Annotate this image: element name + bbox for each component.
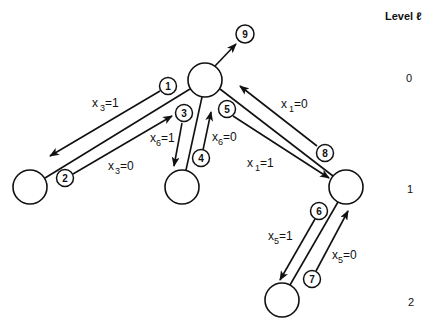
tree-node-right (329, 170, 363, 204)
svg-text:8: 8 (322, 148, 328, 159)
svg-text:5: 5 (224, 104, 230, 115)
label-step-5: x1=1 (247, 156, 274, 173)
tree-edge-root-exit (215, 44, 236, 66)
level-label-1: 1 (407, 183, 413, 195)
step-badge-3: 3 (176, 105, 193, 122)
tree-edge-root-right (220, 89, 333, 176)
search-tree-diagram: 1 2 3 4 5 6 7 8 (0, 0, 434, 327)
step-8-arrow (240, 86, 317, 146)
level-label-0: 0 (406, 72, 412, 84)
tree-node-root (188, 63, 222, 97)
level-header: Level ℓ (385, 10, 422, 22)
step-4-arrow (203, 112, 211, 150)
svg-text:4: 4 (198, 153, 204, 164)
level-column: Level ℓ 0 1 2 (385, 10, 422, 308)
svg-text:2: 2 (62, 173, 68, 184)
svg-text:6: 6 (316, 206, 322, 217)
step-badge-6: 6 (311, 203, 328, 220)
step-badge-2: 2 (57, 170, 74, 187)
label-step-2: x3=0 (108, 159, 134, 176)
step-badge-5: 5 (219, 101, 236, 118)
svg-text:3: 3 (181, 108, 187, 119)
level-label-2: 2 (408, 296, 414, 308)
step-badge-8: 8 (317, 145, 334, 162)
label-step-7: x5=0 (332, 248, 357, 265)
step-3-arrow (174, 123, 182, 166)
step-badge-4: 4 (193, 150, 210, 167)
step-badge-1: 1 (160, 78, 177, 95)
svg-text:1: 1 (165, 81, 171, 92)
assignment-labels: x3=1 x3=0 x6=1 x6=0 x1=1 x5=1 x5=0 x1=0 (92, 96, 357, 265)
label-step-4: x6=0 (212, 130, 237, 147)
label-step-8: x1=0 (281, 97, 308, 114)
label-step-3: x6=1 (150, 131, 175, 148)
svg-text:9: 9 (242, 29, 248, 40)
tree-node-middle (165, 170, 199, 204)
label-step-1: x3=1 (92, 96, 119, 113)
svg-text:7: 7 (309, 274, 315, 285)
step-badge-9: 9 (236, 25, 254, 43)
label-step-6: x5=1 (268, 229, 293, 246)
step-badge-7: 7 (304, 271, 321, 288)
step-badges: 1 2 3 4 5 6 7 8 (57, 25, 334, 288)
tree-node-bottom (265, 283, 299, 317)
tree-node-left (13, 170, 47, 204)
